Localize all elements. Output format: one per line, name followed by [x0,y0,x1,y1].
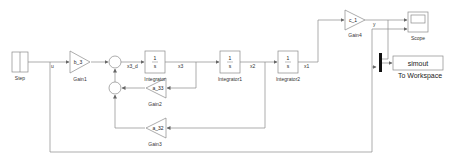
wire-u-to-mux[interactable] [50,62,376,152]
gain1-label: Gain1 [73,76,86,82]
signal-x2-label: x2 [250,63,255,69]
integrator-label: Integrator [144,76,165,82]
signal-x3-label: x3 [178,63,183,69]
wire-x1[interactable] [298,20,344,62]
integrator1-label: Integrator1 [218,76,242,82]
gain1-value: b_3 [74,59,82,65]
scope-label: Scope [411,35,425,41]
wire-gain3-sum2[interactable] [115,95,145,128]
to-workspace-label: To Workspace [398,72,442,79]
signal-y-label: y [373,21,376,27]
gain4-label: Gain4 [348,32,361,38]
gain2-value: a_33 [152,85,163,91]
integrator2-num: 1 [287,55,290,61]
step-label: Step [15,75,25,81]
integrator-num: 1 [154,55,157,61]
signal-x3d-label: x3_d [127,63,138,69]
gain3-value: a_32 [152,125,163,131]
gain4-value: c_1 [349,17,357,23]
mux-block[interactable] [379,53,382,72]
integrator1-num: 1 [229,55,232,61]
sum2-block[interactable] [109,82,121,94]
wire-y-to-mux-vertical[interactable] [382,20,388,59]
integrator1-den: s [229,63,232,69]
gain3-label: Gain3 [148,141,161,147]
scope-screen-icon [411,15,425,23]
integrator2-den: s [287,63,290,69]
gain2-label: Gain2 [148,101,161,107]
integrator2-label: Integrator2 [276,76,300,82]
integrator-den: s [154,63,157,69]
signal-u-label: u [51,63,54,69]
simout-value: simout [408,60,429,67]
signal-x1-label: x1 [304,63,309,69]
wire-x2-gain3[interactable] [167,62,265,128]
sum1-block[interactable] [109,56,121,68]
